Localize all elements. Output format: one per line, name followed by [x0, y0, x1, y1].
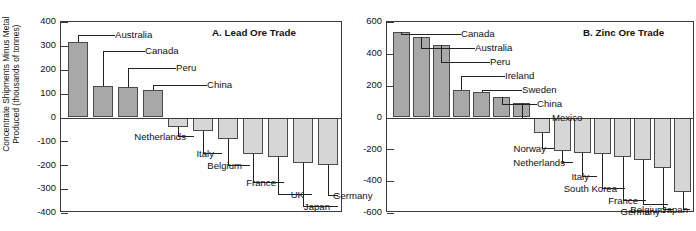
bar-south-korea: [594, 118, 611, 154]
bar-italy: [193, 118, 213, 132]
y-tick-label: -200: [363, 144, 382, 153]
y-tick-mark: [61, 70, 68, 71]
y-tick-labels-left: 4003002001000-100-200-300-400: [26, 0, 56, 231]
callout-leader-vertical: [522, 103, 523, 118]
y-tick-label: 200: [366, 80, 382, 89]
callout-leader-horizontal: [203, 153, 222, 154]
callout-leader-horizontal: [542, 148, 554, 149]
callout-leader-vertical: [128, 68, 129, 87]
y-tick-label: -100: [37, 136, 56, 145]
bar-china: [143, 90, 163, 117]
y-tick-label: -400: [37, 207, 56, 216]
y-tick-label: -300: [37, 183, 56, 192]
figure-root: Concentrate Shipments Minus Metal Produc…: [0, 0, 696, 231]
y-tick-label: 200: [40, 64, 56, 73]
panel-title-right: B. Zinc Ore Trade: [583, 27, 664, 38]
y-tick-label: 0: [51, 112, 56, 121]
bar-callout-label: Peru: [176, 63, 196, 73]
y-tick-label: 300: [40, 40, 56, 49]
bar-callout-label: Canada: [145, 46, 179, 56]
y-tick-label: 400: [366, 48, 382, 57]
callout-leader-horizontal: [461, 76, 505, 77]
callout-leader-vertical: [421, 37, 422, 48]
bar-canada: [93, 86, 113, 117]
bar-callout-label: China: [537, 99, 562, 109]
plot-area-right: B. Zinc Ore Trade CanadaAustraliaPeruIre…: [386, 21, 694, 212]
callout-leader-horizontal: [153, 85, 207, 86]
callout-leader-vertical: [178, 127, 179, 136]
bar-callout-label: Ireland: [505, 71, 534, 81]
bar-callout-label: Canada: [461, 29, 495, 39]
callout-leader-horizontal: [522, 118, 552, 119]
bar-germany: [318, 118, 338, 165]
callout-leader-horizontal: [178, 136, 194, 137]
y-tick-mark: [387, 118, 394, 119]
bar-callout-label: Australia: [475, 43, 512, 53]
y-tick-label: 400: [40, 16, 56, 25]
y-tick-mark: [387, 22, 394, 23]
callout-leader-vertical: [683, 192, 684, 209]
bar-norway: [534, 118, 551, 134]
callout-leader-vertical: [328, 165, 329, 195]
plot-area-left: A. Lead Ore Trade AustraliaCanadaPeruChi…: [60, 21, 342, 212]
bar-france: [243, 118, 263, 154]
y-tick-label: 100: [40, 88, 56, 97]
callout-leader-vertical: [278, 157, 279, 194]
callout-leader-vertical: [103, 51, 104, 86]
bar-japan: [293, 118, 313, 164]
y-tick-mark: [61, 213, 68, 214]
y-tick-label: 600: [366, 16, 382, 25]
callout-leader-horizontal: [482, 90, 522, 91]
callout-leader-vertical: [623, 157, 624, 200]
callout-leader-vertical: [441, 45, 442, 62]
bar-callout-label: Peru: [490, 57, 510, 67]
zero-baseline-left: [61, 118, 341, 119]
y-tick-mark: [61, 118, 68, 119]
callout-leader-horizontal: [78, 35, 115, 36]
callout-leader-horizontal: [441, 62, 490, 63]
bar-callout-label: Mexico: [552, 113, 582, 123]
y-axis-label: Concentrate Shipments Minus Metal Produc…: [1, 0, 21, 174]
callout-leader-horizontal: [103, 51, 145, 52]
y-tick-mark: [387, 213, 394, 214]
callout-leader-horizontal: [683, 209, 690, 210]
bar-netherlands: [168, 118, 188, 128]
y-tick-mark: [61, 189, 68, 190]
bar-peru: [118, 87, 138, 117]
callout-leader-vertical: [253, 154, 254, 182]
callout-leader-horizontal: [502, 104, 537, 105]
bar-callout-label: Australia: [115, 30, 152, 40]
bar-layer-right: [387, 22, 693, 211]
bar-callout-label: Belgium: [630, 205, 665, 215]
bar-uk: [268, 118, 288, 157]
bar-japan: [674, 118, 691, 193]
y-tick-label: -400: [363, 175, 382, 184]
bar-belgium: [654, 118, 671, 168]
callout-leader-vertical: [461, 76, 462, 90]
bar-germany: [634, 118, 651, 160]
bar-sweden: [473, 92, 490, 118]
y-tick-label: -600: [363, 207, 382, 216]
y-tick-mark: [387, 181, 394, 182]
bar-belgium: [218, 118, 238, 139]
panel-lead-ore-trade: 4003002001000-100-200-300-400 A. Lead Or…: [26, 0, 344, 231]
callout-leader-vertical: [602, 154, 603, 188]
y-tick-mark: [387, 149, 394, 150]
callout-leader-horizontal: [328, 195, 338, 196]
panel-zinc-ore-trade: 6004002000-200-400-600 B. Zinc Ore Trade…: [352, 0, 696, 231]
bar-canada: [393, 32, 410, 118]
callout-leader-horizontal: [421, 48, 475, 49]
bar-callout-label: Netherlands: [513, 158, 565, 168]
bar-callout-label: Sweden: [522, 85, 557, 95]
callout-leader-horizontal: [128, 68, 176, 69]
y-tick-mark: [61, 94, 68, 95]
callout-leader-horizontal: [253, 182, 284, 183]
callout-leader-vertical: [228, 139, 229, 165]
y-tick-mark: [61, 165, 68, 166]
callout-leader-vertical: [542, 133, 543, 148]
y-tick-label: 0: [377, 112, 382, 121]
panel-title-left: A. Lead Ore Trade: [212, 27, 296, 38]
y-tick-mark: [61, 22, 68, 23]
bar-ireland: [453, 90, 470, 118]
callout-leader-vertical: [203, 131, 204, 153]
